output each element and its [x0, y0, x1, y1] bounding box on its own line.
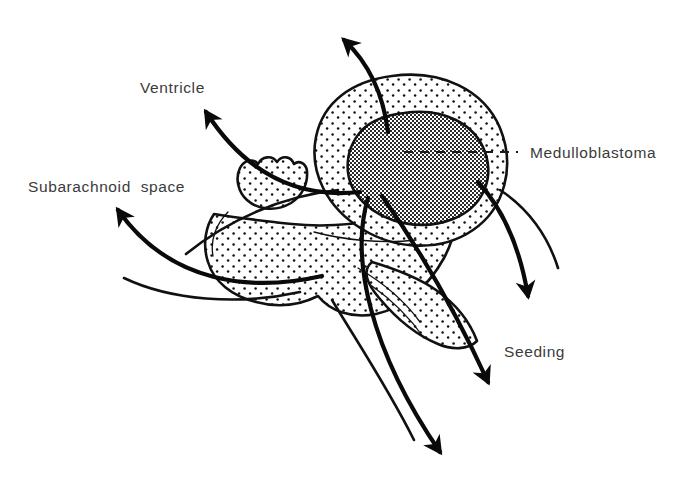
- label-subarachnoid-space: Subarachnoid space: [28, 178, 185, 195]
- anatomy-group: [124, 75, 558, 440]
- choroid-plexus: [238, 157, 308, 208]
- diagram-canvas: Ventricle Subarachnoid space Medulloblas…: [0, 0, 695, 484]
- label-seeding: Seeding: [504, 343, 565, 360]
- label-medulloblastoma: Medulloblastoma: [530, 144, 656, 161]
- medulloblastoma-tumor: [348, 112, 489, 225]
- label-ventricle: Ventricle: [140, 79, 205, 96]
- medulloblastoma-diagram: Ventricle Subarachnoid space Medulloblas…: [0, 0, 695, 484]
